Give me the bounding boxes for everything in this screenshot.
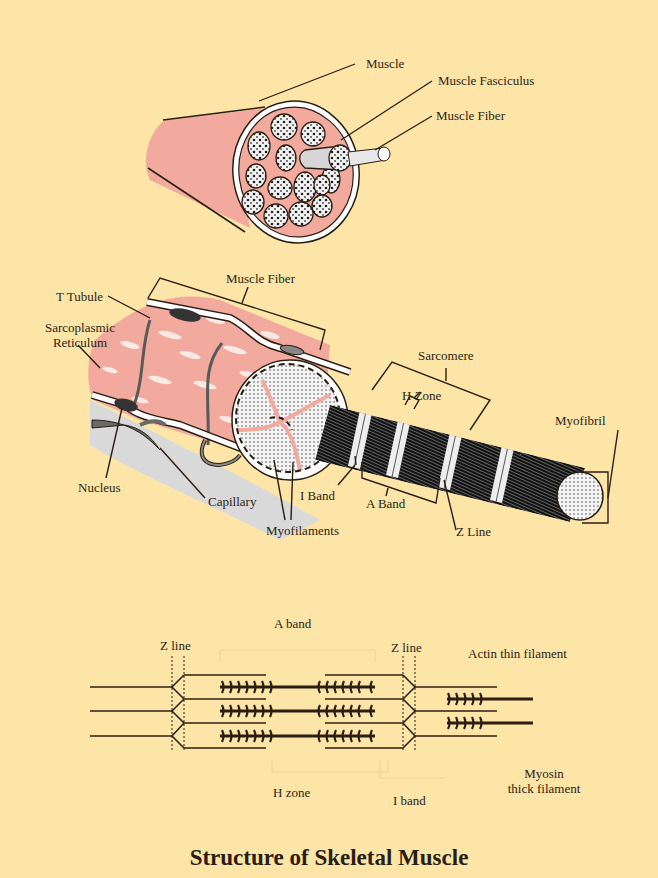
label-z-line-right: Z line [391,640,422,655]
label-z-line: Z Line [456,524,491,539]
label-myofilaments: Myofilaments [266,523,339,538]
page-title: Structure of Skeletal Muscle [0,845,658,871]
skeletal-muscle-diagram [0,0,658,878]
label-sarcoplasmic-reticulum: Sarcoplasmic Reticulum [36,320,124,350]
label-t-tubule: T Tubule [56,289,103,304]
sarcomere-schematic [90,650,533,778]
muscle-fiber-cutaway [78,278,618,540]
label-muscle-fiber: Muscle Fiber [226,271,295,286]
label-h-zone: H Zone [402,388,441,403]
label-sarcomere: Sarcomere [418,348,474,363]
label-muscle: Muscle [366,56,404,71]
label-a-band: A Band [366,496,405,511]
label-h-zone-schematic: H zone [273,785,310,800]
label-i-band: I Band [300,488,335,503]
label-actin-thin-filament: Actin thin filament [468,646,567,661]
label-muscle-fiber-top: Muscle Fiber [436,108,505,123]
label-a-band-schematic: A band [274,616,311,631]
label-myosin-thick-filament: Myosin thick filament [494,766,594,796]
muscle-cross-section [146,64,432,251]
label-nucleus: Nucleus [78,480,121,495]
label-i-band-schematic: I band [393,793,426,808]
label-myofibril: Myofibril [555,413,606,428]
label-muscle-fasciculus: Muscle Fasciculus [438,73,534,88]
label-z-line-left: Z line [160,638,191,653]
label-capillary: Capillary [208,494,256,509]
